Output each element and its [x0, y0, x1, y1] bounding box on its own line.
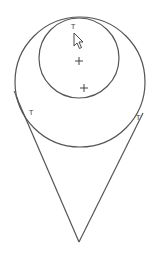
center-mark-outer: [80, 84, 88, 92]
center-mark-inner: [75, 57, 83, 65]
drawing-canvas[interactable]: T T T: [0, 0, 161, 258]
tangent-line-left[interactable]: [16, 96, 79, 242]
tangent-marker: T: [28, 109, 34, 117]
tangent-line-right[interactable]: [79, 113, 143, 242]
arrow-pointer-icon: [74, 33, 83, 49]
outer-circle[interactable]: [15, 17, 145, 147]
tangent-marker: T: [135, 114, 141, 122]
tangent-marker: T: [70, 23, 76, 31]
